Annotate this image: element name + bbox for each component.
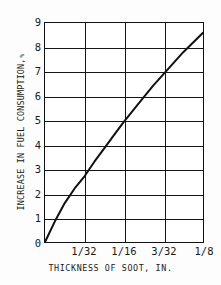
plot-area: [44, 22, 204, 243]
gridline-horizontal: [45, 146, 203, 147]
y-axis-unit-percent: %: [18, 54, 25, 58]
y-tick-label: 9: [27, 17, 41, 27]
x-axis-tick-labels: 1/321/163/321/8: [0, 245, 221, 259]
gridline-horizontal: [45, 97, 203, 98]
gridline-horizontal: [45, 170, 203, 171]
y-axis-title-text: INCREASE IN FUEL CONSUMPTION,: [16, 58, 26, 210]
y-tick-label: 4: [27, 140, 41, 150]
gridline-vertical: [85, 23, 86, 242]
fuel-consumption-chart: INCREASE IN FUEL CONSUMPTION,% 012345678…: [0, 0, 221, 285]
gridline-horizontal: [45, 48, 203, 49]
y-axis-tick-labels: 0123456789: [26, 0, 41, 285]
gridline-horizontal: [45, 72, 203, 73]
gridline-vertical: [165, 23, 166, 242]
y-tick-label: 5: [27, 115, 41, 125]
y-tick-label: 2: [27, 189, 41, 199]
x-tick-label: 1/16: [111, 245, 136, 257]
y-tick-label: 3: [27, 164, 41, 174]
x-tick-label: 3/32: [151, 245, 176, 257]
y-tick-label: 1: [27, 213, 41, 223]
x-axis-title: THICKNESS OF SOOT, IN.: [0, 263, 221, 273]
y-tick-label: 6: [27, 91, 41, 101]
gridline-horizontal: [45, 219, 203, 220]
gridline-vertical: [125, 23, 126, 242]
gridline-horizontal: [45, 195, 203, 196]
y-tick-label: 7: [27, 66, 41, 76]
x-tick-label: 1/8: [195, 245, 214, 257]
data-series-line: [45, 33, 203, 242]
x-tick-label: 1/32: [71, 245, 96, 257]
gridline-horizontal: [45, 121, 203, 122]
y-tick-label: 8: [27, 42, 41, 52]
data-line: [45, 23, 203, 242]
